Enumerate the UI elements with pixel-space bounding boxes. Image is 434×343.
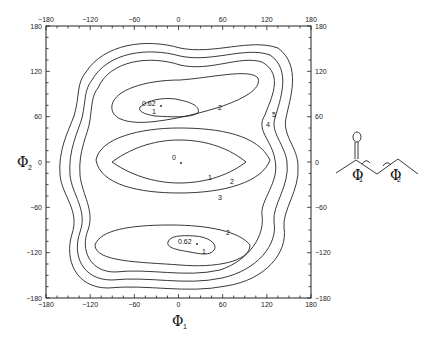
contour-label: 4 [266, 121, 270, 128]
tick-label: 60 [219, 16, 227, 23]
svg-text:2: 2 [28, 164, 32, 171]
contour-label: 2 [226, 229, 230, 236]
tick-label: −120 [26, 249, 42, 256]
plot-frame [46, 26, 311, 298]
contour-label: 3 [218, 194, 222, 201]
tick-label: 120 [30, 68, 42, 75]
contour-label: 1 [208, 174, 212, 181]
tick-label: −120 [82, 301, 98, 308]
svg-text:2: 2 [397, 176, 401, 183]
molecule-diagram: Φ 1 Φ 2 [336, 132, 418, 183]
contour-label: 1 [202, 248, 206, 255]
tick-label: 0 [38, 159, 42, 166]
contour-label: 1 [152, 108, 156, 115]
tick-label: 180 [305, 301, 317, 308]
svg-text:0.62: 0.62 [178, 238, 192, 245]
tick-label: −60 [30, 204, 42, 211]
tick-label: −60 [128, 301, 140, 308]
svg-text:Φ: Φ [17, 154, 28, 170]
svg-text:1: 1 [359, 176, 363, 183]
contour-label: 2 [230, 178, 234, 185]
tick-label: 180 [30, 23, 42, 30]
tick-label: −180 [38, 301, 54, 308]
svg-text:Φ: Φ [172, 313, 183, 329]
tick-label: 60 [219, 301, 227, 308]
tick-label: −120 [315, 249, 331, 256]
tick-label: 0 [177, 301, 181, 308]
svg-text:1: 1 [183, 323, 187, 330]
contour-label: 5 [272, 111, 276, 118]
axis-ticks [46, 26, 311, 298]
tick-label: −180 [315, 295, 331, 302]
contour-label: 2 [218, 104, 222, 111]
tick-label: 180 [315, 23, 327, 30]
x-axis-title: Φ 1 [172, 313, 187, 330]
tick-label: −60 [315, 204, 327, 211]
tick-label: −120 [82, 16, 98, 23]
tick-label: 120 [261, 301, 273, 308]
contour-labels: 1 2 1 2 3 4 5 2 1 [152, 104, 276, 255]
tick-label: 120 [315, 68, 327, 75]
svg-text:0: 0 [172, 154, 176, 161]
tick-label: −180 [26, 295, 42, 302]
contour-plot: −180−180−120−120−60−60006060120120180180… [0, 0, 434, 343]
tick-label: 0 [315, 159, 319, 166]
svg-text:0.62: 0.62 [142, 100, 156, 107]
tick-label: −60 [128, 16, 140, 23]
tick-label: 60 [34, 113, 42, 120]
tick-label: 0 [177, 16, 181, 23]
tick-label: 120 [261, 16, 273, 23]
tick-label: 60 [315, 113, 323, 120]
contour-lines [60, 43, 298, 289]
y-axis-title: Φ 2 [17, 154, 32, 171]
